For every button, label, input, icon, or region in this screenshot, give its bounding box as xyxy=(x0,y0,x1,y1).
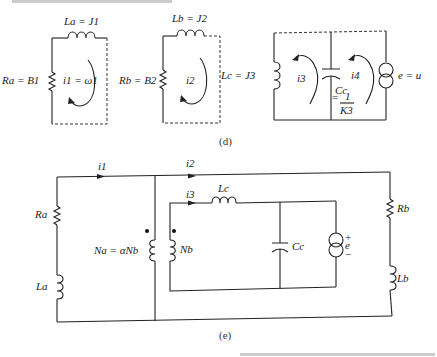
label-lc-j3: Lc = J3 xyxy=(220,69,256,81)
label-i3: i3 xyxy=(186,188,195,200)
primary-polarity-dot xyxy=(145,229,149,233)
current-source-e-panel xyxy=(329,233,343,257)
cropped-text-top xyxy=(12,0,172,3)
label-la: La xyxy=(35,280,48,292)
circuit-c: Lc = J3 i3 i4 Cc = 1 K3 e = u xyxy=(220,31,422,120)
inductor-la-j1 xyxy=(68,32,95,38)
label-na-alpha-nb: Na = αNb xyxy=(93,244,139,256)
circuit-figure: La = J1 Ra = B1 i1 = ω1 Lb = J2 Rb = B2 … xyxy=(0,0,437,357)
label-lb-j2: Lb = J2 xyxy=(171,12,207,24)
resistor-ra xyxy=(54,206,60,225)
inductor-lc xyxy=(212,197,236,203)
label-i4: i4 xyxy=(351,69,360,81)
arrow-i3 xyxy=(188,201,196,206)
inductor-la xyxy=(57,275,63,299)
resistor-rb-b2 xyxy=(160,70,166,89)
label-i3: i3 xyxy=(297,72,306,84)
label-cc-equals: = xyxy=(332,91,338,103)
circuit-a: La = J1 Ra = B1 i1 = ω1 xyxy=(1,15,107,124)
label-i1: i1 xyxy=(98,160,107,172)
label-cc-e: Cc xyxy=(292,240,304,252)
label-rb: Rb xyxy=(396,202,410,214)
label-ra: Ra xyxy=(34,208,48,220)
label-cc-numerator: 1 xyxy=(345,90,351,102)
inductor-lc-j3 xyxy=(274,62,280,89)
label-i2: i2 xyxy=(186,157,195,169)
inductor-lb-j2 xyxy=(177,30,204,36)
arrow-i2 xyxy=(188,174,196,179)
secondary-polarity-dot xyxy=(172,229,176,233)
label-rb-b2: Rb = B2 xyxy=(118,74,157,86)
circuit-e: i1 i2 i3 Ra La Na = αNb Nb Lc Cc + e − R… xyxy=(34,157,410,322)
label-lc: Lc xyxy=(217,182,229,194)
label-e-u: e = u xyxy=(398,69,422,81)
caption-d: (d) xyxy=(219,135,232,148)
label-cc-denominator: K3 xyxy=(339,104,353,116)
label-nb: Nb xyxy=(179,243,193,255)
caption-e: (e) xyxy=(219,329,232,342)
resistor-rb xyxy=(387,199,393,218)
arrow-i1 xyxy=(97,174,105,179)
label-lb: Lb xyxy=(396,272,409,284)
label-ra-b1: Ra = B1 xyxy=(1,74,39,86)
label-source-minus: − xyxy=(345,248,351,260)
label-la-j1: La = J1 xyxy=(63,15,99,27)
inductor-lb xyxy=(390,266,396,290)
current-source-e xyxy=(379,63,393,88)
resistor-ra-b1 xyxy=(49,72,55,91)
label-i1-omega1: i1 = ω1 xyxy=(63,74,98,86)
label-i2: i2 xyxy=(186,74,195,86)
transformer-primary-winding xyxy=(150,240,155,261)
transformer-secondary-winding xyxy=(170,240,175,261)
cropped-text-bottom xyxy=(240,353,435,356)
circuit-b: Lb = J2 Rb = B2 i2 xyxy=(118,12,220,123)
